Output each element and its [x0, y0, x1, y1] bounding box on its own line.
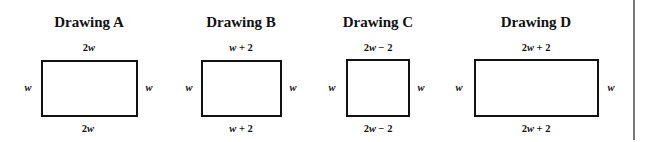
drawing-a-top-label: 2w — [83, 42, 95, 53]
drawing-c-top-label: 2w − 2 — [364, 42, 393, 53]
drawing-d-top-label: 2w + 2 — [522, 42, 551, 53]
drawing-b-bottom-label: w + 2 — [229, 123, 253, 134]
drawing-c-rectangle — [346, 59, 410, 117]
drawing-d-rectangle — [474, 59, 599, 117]
drawing-a-left-label: w — [24, 82, 31, 93]
drawing-c-bottom-label: 2w − 2 — [364, 123, 393, 134]
drawing-a-rectangle — [41, 60, 138, 117]
drawing-a-bottom-label: 2w — [82, 123, 94, 134]
drawing-b-right-label: w — [289, 82, 296, 93]
drawing-a-right-label: w — [145, 82, 152, 93]
drawing-b-title: Drawing B — [206, 14, 276, 31]
drawing-c-right-label: w — [417, 82, 424, 93]
drawing-c-title: Drawing C — [343, 14, 413, 31]
drawing-a-title: Drawing A — [54, 14, 124, 31]
drawing-d-left-label: w — [455, 82, 462, 93]
drawing-b-rectangle — [201, 60, 282, 117]
drawing-c-left-label: w — [328, 82, 335, 93]
drawing-d-right-label: w — [607, 82, 614, 93]
drawing-d-bottom-label: 2w + 2 — [522, 123, 551, 134]
divider-line — [633, 0, 635, 140]
drawing-b-top-label: w + 2 — [229, 42, 253, 53]
drawing-d-title: Drawing D — [501, 14, 571, 31]
drawing-b-left-label: w — [185, 82, 192, 93]
